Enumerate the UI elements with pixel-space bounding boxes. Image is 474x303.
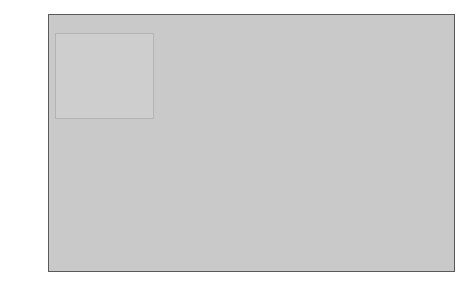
y-axis [0,0,44,303]
chart-legend [55,33,154,119]
population-stacked-area-chart [0,0,474,303]
